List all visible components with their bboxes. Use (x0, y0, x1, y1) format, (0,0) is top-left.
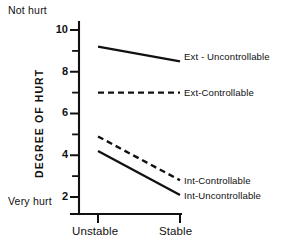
x-axis-ticks (98, 214, 180, 222)
series-label-int-controllable: Int-Controllable (184, 176, 251, 186)
y-tick-label-8: 8 (50, 66, 68, 77)
series-line-ext-uncontrollable (98, 47, 180, 62)
x-tick-label-unstable: Unstable (72, 226, 118, 238)
series-label-ext-uncontrollable: Ext - Uncontrollable (184, 52, 270, 62)
y-axis-major-ticks (71, 30, 79, 197)
series-label-ext-controllable: Ext-Controllable (184, 88, 254, 98)
x-tick-label-stable: Stable (159, 226, 192, 238)
y-axis-title: DEGREE OF HURT (34, 69, 45, 178)
y-tick-label-2: 2 (50, 191, 68, 202)
y-tick-label-6: 6 (50, 107, 68, 118)
series-label-int-uncontrollable: Int-Uncontrollable (184, 191, 261, 201)
series-line-int-uncontrollable (98, 151, 180, 195)
line-chart-figure: Not hurt Very hurt DEGREE OF HURT 10 8 6… (0, 0, 287, 249)
y-tick-label-4: 4 (50, 149, 68, 160)
y-tick-label-10: 10 (50, 24, 68, 35)
axis-anchor-low-label: Very hurt (8, 196, 52, 207)
axis-anchor-high-label: Not hurt (8, 5, 47, 16)
